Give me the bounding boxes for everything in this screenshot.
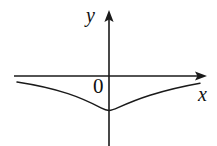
y-axis-label: y [86, 5, 95, 25]
graph-figure: y x 0 [0, 0, 217, 146]
coordinate-plot-svg [0, 0, 217, 146]
origin-label: 0 [93, 76, 104, 97]
x-axis-label: x [198, 84, 207, 104]
